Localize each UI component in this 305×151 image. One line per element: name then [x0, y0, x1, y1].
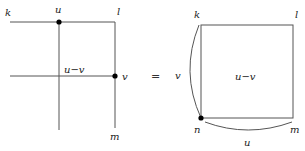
vertex-n-dot — [198, 115, 203, 120]
diagram-canvas: k u l u−v v m = k l u−v v n m u — [0, 0, 305, 151]
label-l: l — [295, 9, 298, 20]
equals-sign: = — [151, 70, 160, 83]
label-v: v — [122, 71, 128, 82]
label-u-minus-v: u−v — [235, 71, 256, 82]
label-m: m — [290, 124, 299, 135]
label-k: k — [194, 9, 200, 20]
label-l: l — [117, 6, 120, 17]
vertex-u-dot — [56, 19, 61, 24]
arc-u — [205, 122, 292, 130]
arc-v — [190, 25, 201, 118]
left-diagram: k u l u−v v m — [5, 4, 128, 142]
right-diagram: k l u−v v n m u — [175, 9, 299, 148]
label-u: u — [244, 137, 250, 148]
label-u: u — [55, 4, 61, 15]
label-v: v — [175, 70, 181, 81]
label-n: n — [194, 124, 200, 135]
label-u-minus-v: u−v — [64, 64, 85, 75]
vertex-v-dot — [112, 73, 117, 78]
label-m: m — [110, 131, 119, 142]
label-k: k — [5, 7, 11, 18]
